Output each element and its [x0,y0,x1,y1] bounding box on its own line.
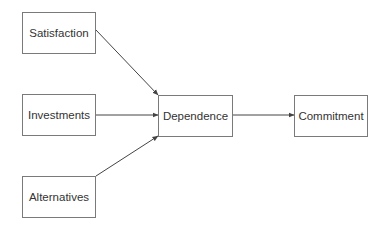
node-satisfaction-label: Satisfaction [29,27,88,39]
node-investments: Investments [22,94,96,136]
edge-satisfaction-to-dependence [96,30,158,95]
node-dependence-label: Dependence [163,110,228,122]
node-alternatives-label: Alternatives [29,191,89,203]
node-satisfaction: Satisfaction [22,12,96,54]
edge-alternatives-to-dependence [96,136,158,176]
node-dependence: Dependence [158,95,233,137]
node-commitment-label: Commitment [298,110,363,122]
node-commitment: Commitment [294,95,368,137]
diagram-canvas: Satisfaction Investments Alternatives De… [0,0,387,228]
node-alternatives: Alternatives [22,176,96,218]
node-investments-label: Investments [28,109,90,121]
